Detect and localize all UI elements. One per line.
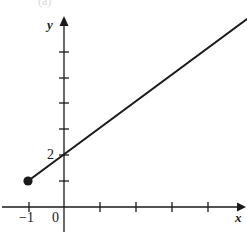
y-tick-label-2: 2 [47, 148, 54, 162]
y-axis-label: y [47, 18, 53, 31]
figure-container: (a) y x 2 [0, 0, 247, 249]
x-tick-label-negative-1: −1 [19, 211, 34, 225]
x-axis-label: x [235, 211, 242, 224]
line-graph-plot [0, 0, 247, 249]
line-series-y-equals-x-plus-2 [28, 19, 247, 181]
y-axis-arrow-icon [60, 16, 69, 26]
origin-label: 0 [52, 211, 59, 225]
endpoint-filled-dot [23, 176, 32, 185]
